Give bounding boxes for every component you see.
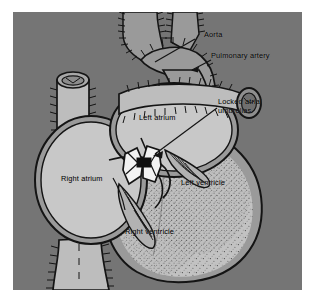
umbrella-locking-core — [137, 158, 151, 167]
svc-lumen — [62, 76, 84, 85]
label-locked-atrial-umbrellas-line2: umbrellas — [218, 107, 251, 116]
ivc-tube — [53, 238, 109, 290]
label-right-ventricle: Right ventricle — [125, 228, 174, 237]
label-right-atrium: Right atrium — [61, 175, 103, 184]
label-left-atrium: Left atrium — [139, 114, 176, 123]
label-aorta: Aorta — [204, 31, 222, 40]
illustration-panel: Aorta Pulmonary artery Locked atrial umb… — [13, 12, 302, 290]
label-pulmonary-artery: Pulmonary artery — [211, 52, 270, 61]
figure-root: Aorta Pulmonary artery Locked atrial umb… — [0, 0, 316, 304]
label-left-ventricle: Left ventricle — [181, 179, 225, 188]
